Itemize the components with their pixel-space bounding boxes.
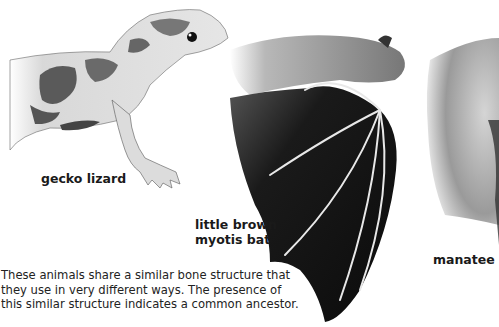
figure-caption: These animals share a similar bone struc… xyxy=(1,268,301,312)
bat-label-line2: myotis bat xyxy=(195,232,285,247)
manatee-illustration xyxy=(427,38,499,245)
bat-label: little brown myotis bat xyxy=(195,217,285,247)
bat-label-line1: little brown xyxy=(195,217,285,232)
manatee-label: manatee xyxy=(433,252,495,267)
gecko-illustration xyxy=(10,10,228,188)
gecko-lizard-label: gecko lizard xyxy=(41,171,126,186)
